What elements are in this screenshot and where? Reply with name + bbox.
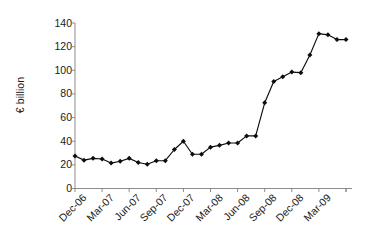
y-axis-tick-label: 120 — [38, 41, 72, 52]
data-point — [280, 74, 285, 79]
data-point — [298, 70, 303, 75]
x-axis-tick-label: Dec-08 — [274, 192, 305, 223]
data-point — [136, 159, 141, 164]
data-point — [127, 155, 132, 160]
data-point — [82, 157, 87, 162]
data-point — [325, 32, 330, 37]
y-axis-title-label: € billion — [14, 77, 26, 114]
x-axis-tick-label: Mar-07 — [85, 192, 116, 223]
data-point — [73, 153, 78, 158]
x-axis-tick-label: Jun-08 — [221, 192, 251, 222]
y-axis-tick-label: 0 — [38, 183, 72, 194]
x-axis-tick-label: Dec-07 — [165, 192, 196, 223]
x-axis-tick-label: Sep-07 — [138, 192, 169, 223]
x-axis-tick-label: Sep-08 — [247, 192, 278, 223]
data-point — [226, 140, 231, 145]
y-axis-tick-label: 140 — [38, 17, 72, 28]
data-point — [100, 156, 105, 161]
x-axis-tick-label: Jun-07 — [113, 192, 143, 222]
y-axis-tick-labels: 020406080100120140 — [34, 0, 72, 250]
data-point — [344, 37, 349, 42]
x-axis-tick-label: Mar-08 — [193, 192, 224, 223]
data-point — [145, 161, 150, 166]
data-series — [75, 23, 352, 189]
data-point — [154, 158, 159, 163]
data-point — [217, 142, 222, 147]
data-point — [91, 155, 96, 160]
data-point — [262, 100, 267, 105]
data-point — [253, 133, 258, 138]
y-axis-tick-label: 80 — [38, 88, 72, 99]
plot-area — [75, 23, 352, 189]
y-axis-tick-label: 100 — [38, 65, 72, 76]
x-axis-tick-label: Mar-09 — [302, 192, 333, 223]
y-axis-tick-label: 60 — [38, 112, 72, 123]
y-axis-tick-label: 40 — [38, 135, 72, 146]
data-point — [316, 31, 321, 36]
line-chart: € billion 020406080100120140 Dec-06Mar-0… — [0, 0, 376, 250]
data-point — [271, 79, 276, 84]
data-point — [118, 158, 123, 163]
data-point — [307, 52, 312, 57]
data-point — [334, 37, 339, 42]
data-point — [109, 160, 114, 165]
data-point — [289, 69, 294, 74]
y-axis-tick-label: 20 — [38, 159, 72, 170]
